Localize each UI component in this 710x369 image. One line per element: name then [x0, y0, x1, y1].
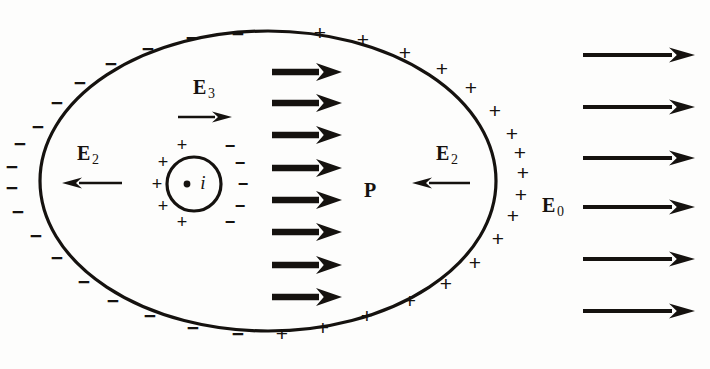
polarization-arrow-4: [272, 159, 342, 177]
bound-negative-charge: −: [232, 323, 244, 344]
bound-negative-charge: −: [187, 317, 199, 338]
polarization-arrow-5: [272, 191, 342, 209]
e2-right-symbol: E: [436, 142, 449, 164]
cavity-negative-charge: −: [225, 137, 236, 155]
bound-positive-charge: +: [399, 42, 411, 63]
polarization-arrow-7-head: [316, 256, 342, 274]
cavity-positive-charge: +: [152, 175, 163, 193]
external-field-arrow-2-head: [669, 100, 695, 115]
external-field-arrow-3-head: [669, 151, 695, 166]
cavity-negative-charge: −: [238, 175, 249, 193]
cavity-negative-charge: −: [235, 154, 246, 172]
external-field-arrow-5: [583, 252, 695, 267]
bound-negative-charge: −: [14, 133, 26, 154]
bound-positive-charge: +: [440, 273, 452, 294]
bound-positive-charge: +: [314, 22, 326, 43]
bound-negative-charge: −: [74, 72, 86, 93]
e2-left-subscript: 2: [92, 152, 99, 167]
polarization-arrow-3-head: [316, 126, 342, 144]
bound-negative-charge: −: [232, 23, 244, 44]
cavity-positive-charge: +: [177, 136, 188, 154]
bound-negative-charge: −: [6, 156, 18, 177]
external-field-arrow-1-head: [669, 48, 695, 63]
bound-positive-charge: +: [507, 205, 519, 226]
field-label-e0: E0: [542, 195, 564, 219]
polarization-arrow-3: [272, 126, 342, 144]
e2-right-arrow: [412, 178, 470, 189]
external-field-arrow-5-head: [669, 252, 695, 267]
polarization-arrow-8-head: [316, 288, 342, 306]
bound-positive-charge: +: [515, 184, 527, 205]
e0-subscript: 0: [557, 204, 564, 219]
polarization-arrow-1: [272, 63, 342, 81]
bound-negative-charge: −: [107, 290, 119, 311]
e2-right-subscript: 2: [451, 152, 458, 167]
e3-arrow: [178, 112, 232, 123]
external-field-arrow-6: [583, 304, 695, 319]
bound-negative-charge: −: [12, 201, 24, 222]
polarization-arrow-7: [272, 256, 342, 274]
polarization-arrow-8: [272, 288, 342, 306]
bound-negative-charge: −: [30, 225, 42, 246]
bound-positive-charge: +: [436, 58, 448, 79]
external-field-arrow-4: [583, 200, 695, 215]
polarization-arrow-6-head: [316, 223, 342, 241]
bound-positive-charge: +: [517, 162, 529, 183]
cavity-center-dot: [184, 181, 191, 188]
cavity-negative-charge: −: [235, 197, 246, 215]
external-field-arrow-3: [583, 151, 695, 166]
bound-negative-charge: −: [51, 247, 63, 268]
bound-positive-charge: +: [317, 317, 329, 338]
bound-positive-charge: +: [276, 323, 288, 344]
bound-positive-charge: +: [465, 77, 477, 98]
bound-positive-charge: +: [357, 29, 369, 50]
field-label-e3: E3: [193, 77, 215, 101]
e2-left-symbol: E: [77, 142, 90, 164]
polarization-arrow-1-head: [316, 63, 342, 81]
bound-negative-charge: −: [144, 305, 156, 326]
polarization-arrow-2-head: [316, 94, 342, 112]
cavity-positive-charge: +: [158, 197, 169, 215]
bound-negative-charge: −: [6, 177, 18, 198]
bound-positive-charge: +: [404, 290, 416, 311]
bound-positive-charge: +: [514, 142, 526, 163]
bound-negative-charge: −: [186, 27, 198, 48]
e2-left-arrow: [62, 178, 122, 189]
bound-positive-charge: +: [492, 228, 504, 249]
e3-subscript: 3: [208, 86, 215, 101]
polarization-arrow-2: [272, 94, 342, 112]
bound-negative-charge: −: [32, 116, 44, 137]
cavity-positive-charge: +: [177, 213, 188, 231]
field-label-e2-left: E2: [77, 143, 99, 167]
polarization-arrow-5-head: [316, 191, 342, 209]
e0-symbol: E: [542, 194, 555, 216]
bound-positive-charge: +: [361, 305, 373, 326]
polarization-arrow-6: [272, 223, 342, 241]
bound-negative-charge: −: [51, 92, 63, 113]
polarization-arrow-4-head: [316, 159, 342, 177]
external-field-arrow-6-head: [669, 304, 695, 319]
cavity-boundary: [167, 157, 221, 211]
external-field-arrow-1: [583, 48, 695, 63]
e3-symbol: E: [193, 76, 206, 98]
polarization-label-p: P: [364, 180, 376, 200]
external-field-arrow-4-head: [669, 200, 695, 215]
physics-diagram-canvas: −−−−−−−−−−−−−−−−−−++++++++++++++++++++++…: [0, 0, 710, 369]
cavity-positive-charge: +: [158, 153, 169, 171]
field-label-e2-right: E2: [436, 143, 458, 167]
bound-negative-charge: −: [105, 53, 117, 74]
cavity-negative-charge: −: [225, 213, 236, 231]
bound-negative-charge: −: [78, 271, 90, 292]
bound-positive-charge: +: [489, 100, 501, 121]
bound-negative-charge: −: [142, 38, 154, 59]
bound-positive-charge: +: [469, 252, 481, 273]
cavity-label-i: i: [200, 173, 205, 192]
external-field-arrow-2: [583, 100, 695, 115]
